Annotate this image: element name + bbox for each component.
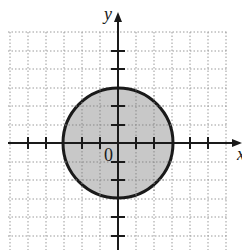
- y-axis-label: y: [102, 4, 112, 24]
- y-axis-arrow-icon: [114, 12, 122, 22]
- graph: y x 0: [0, 0, 242, 250]
- x-axis-label: x: [236, 144, 242, 164]
- origin-label: 0: [104, 145, 113, 165]
